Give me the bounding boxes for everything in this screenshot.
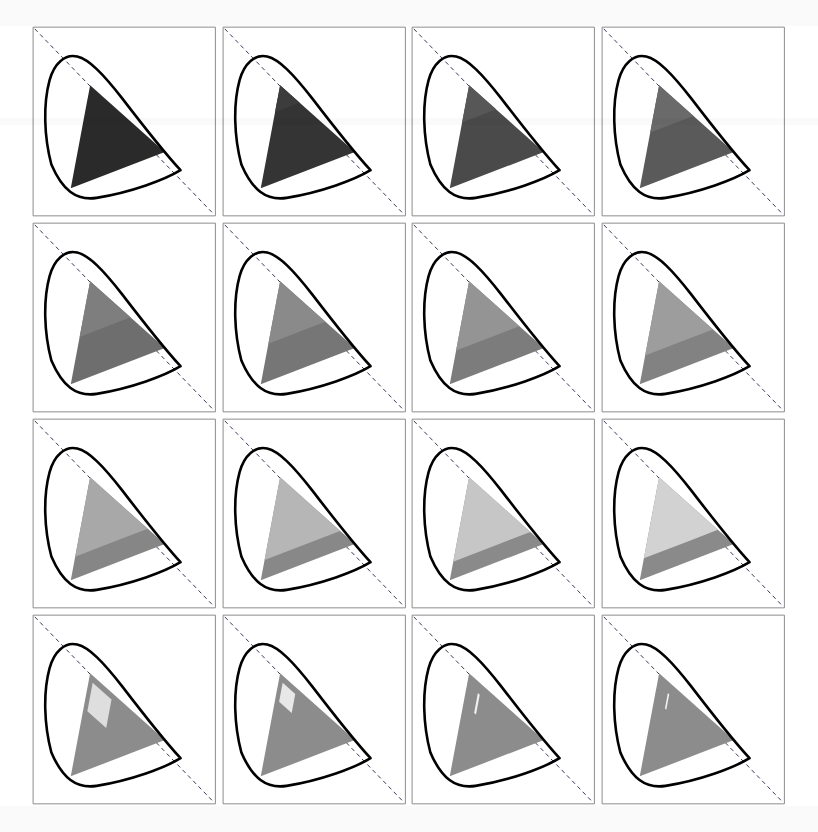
panel-canvas — [411, 222, 596, 413]
panel-canvas — [32, 222, 217, 413]
chromaticity-panel — [32, 222, 217, 413]
panel-canvas — [601, 222, 786, 413]
panel-canvas — [222, 26, 407, 217]
chromaticity-panel — [601, 26, 786, 217]
chromaticity-panel — [411, 418, 596, 609]
panel-canvas — [601, 418, 786, 609]
chromaticity-panel — [601, 222, 786, 413]
panel-canvas — [32, 614, 217, 805]
chromaticity-panel — [411, 614, 596, 805]
chromaticity-panel — [32, 614, 217, 805]
chromaticity-panel — [601, 614, 786, 805]
panel-canvas — [222, 614, 407, 805]
panel-canvas — [222, 418, 407, 609]
chromaticity-panel — [222, 614, 407, 805]
panel-canvas — [32, 418, 217, 609]
chromaticity-panel — [601, 418, 786, 609]
chromaticity-panel — [222, 418, 407, 609]
chromaticity-panel — [411, 222, 596, 413]
chromaticity-panel — [411, 26, 596, 217]
panel-canvas — [411, 26, 596, 217]
chromaticity-panel — [222, 26, 407, 217]
panel-canvas — [32, 26, 217, 217]
panel-canvas — [411, 418, 596, 609]
panel-canvas — [601, 614, 786, 805]
chromaticity-panel — [32, 418, 217, 609]
chromaticity-panel — [32, 26, 217, 217]
panel-canvas — [222, 222, 407, 413]
chromaticity-panel — [222, 222, 407, 413]
panel-canvas — [601, 26, 786, 217]
panel-grid — [0, 0, 818, 832]
panel-canvas — [411, 614, 596, 805]
